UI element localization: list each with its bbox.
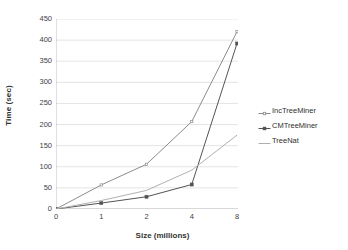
data-point-marker: [190, 183, 193, 186]
series-inctreeminer: [56, 31, 238, 209]
legend-label: TreeNat: [272, 136, 299, 145]
legend-label: IncTreeMiner: [272, 106, 316, 115]
chart-legend: IncTreeMinerCMTreeMinerTreeNat: [258, 103, 346, 148]
legend-item-treenat[interactable]: TreeNat: [258, 133, 346, 148]
x-tick-label: 2: [135, 212, 159, 221]
legend-item-inctreeminer[interactable]: IncTreeMiner: [258, 103, 346, 118]
x-axis-title: Size (millions): [55, 231, 270, 240]
data-point-marker: [236, 31, 238, 33]
legend-item-cmtreeminer[interactable]: CMTreeMiner: [258, 118, 346, 133]
y-axis-title: Time (sec): [0, 0, 16, 210]
y-tick-label: 400: [26, 36, 52, 44]
y-tick-label: 350: [26, 57, 52, 65]
x-tick-label: 8: [225, 212, 249, 221]
series-line: [56, 32, 237, 209]
y-tick-label: 150: [26, 142, 52, 150]
plot-area: [56, 19, 238, 209]
x-tick-label: 1: [89, 212, 113, 221]
legend-swatch-icon: [258, 105, 271, 116]
y-axis-title-text: Time (sec): [4, 85, 13, 125]
series-line: [56, 43, 237, 209]
data-point-marker: [145, 163, 147, 165]
y-tick-label: 450: [26, 15, 52, 23]
x-tick-label: 4: [180, 212, 204, 221]
data-point-marker: [100, 201, 103, 204]
x-axis-title-text: Size (millions): [136, 231, 190, 240]
data-point-marker: [191, 121, 193, 123]
y-tick-label: 100: [26, 163, 52, 171]
data-point-marker: [235, 42, 238, 45]
y-tick-label: 200: [26, 121, 52, 129]
y-tick-label: 50: [26, 184, 52, 192]
x-tick-label: 0: [44, 212, 68, 221]
y-tick-label: 250: [26, 100, 52, 108]
series-cmtreeminer: [56, 42, 238, 209]
legend-label: CMTreeMiner: [272, 121, 318, 130]
line-chart: Time (sec) 050100150200250300350400450 0…: [0, 0, 348, 250]
legend-swatch-icon: [258, 135, 271, 146]
data-point-marker: [145, 195, 148, 198]
plot-svg: [56, 19, 238, 209]
y-tick-label: 300: [26, 79, 52, 87]
legend-swatch-icon: [258, 120, 271, 131]
data-point-marker: [100, 184, 102, 186]
